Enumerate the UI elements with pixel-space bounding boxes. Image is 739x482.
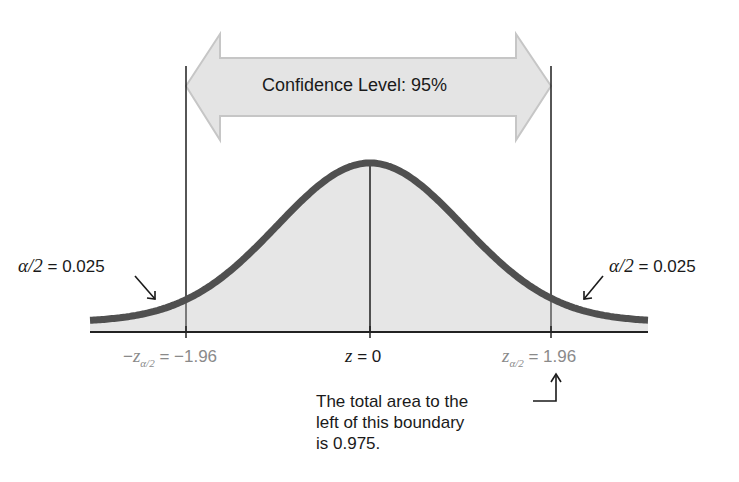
right-critical-value: = 1.96 [524,347,576,366]
boundary-annotation: The total area to the left of this bound… [316,391,468,454]
right-tail-label: α/2 = 0.025 [609,255,696,277]
left-critical-value-label: −zα/2 = −1.96 [123,345,217,369]
right-tail-arrow [584,276,603,299]
left-tail-label: α/2 = 0.025 [18,255,105,277]
center-value: = 0 [352,347,381,366]
right-critical-value-label: zα/2 = 1.96 [502,345,576,369]
right-tail-value: = 0.025 [634,257,696,276]
annotation-line-1: The total area to the [316,391,468,412]
minus-sign: − [123,347,133,366]
left-tail-arrow [135,276,155,299]
annotation-line-2: left of this boundary [316,412,468,433]
alpha-half-symbol: α/2 [18,255,43,276]
boundary-pointer-arrow [533,374,561,401]
confidence-level-label: Confidence Level: 95% [262,75,447,96]
annotation-line-3: is 0.975. [316,433,468,454]
alpha-half-subscript: α/2 [509,357,523,369]
center-value-label: z = 0 [345,345,381,367]
left-critical-value: = −1.96 [155,347,217,366]
left-tail-value: = 0.025 [43,257,105,276]
alpha-half-symbol: α/2 [609,255,634,276]
alpha-half-subscript: α/2 [140,357,154,369]
